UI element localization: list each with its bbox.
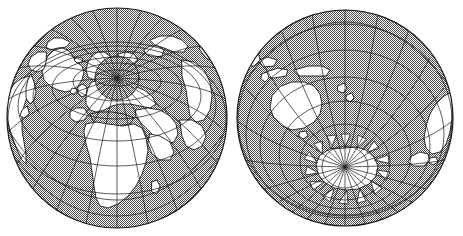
globe-northern-hemisphere <box>6 7 227 228</box>
hemispheres-illustration <box>0 0 463 236</box>
figure-canvas <box>0 0 463 236</box>
land-africa-south <box>238 50 260 66</box>
globe-southern-hemisphere <box>237 8 453 232</box>
